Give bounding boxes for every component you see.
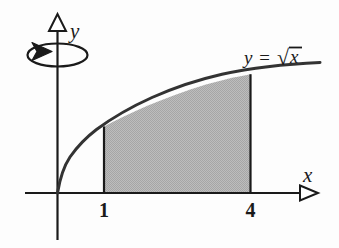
- figure-container: y x 1 4 y = √ x: [0, 0, 339, 248]
- sqrt-function-figure: y x 1 4 y = √ x: [0, 0, 339, 248]
- y-axis-label: y: [68, 19, 80, 43]
- x-tick-label-4: 4: [246, 199, 256, 221]
- x-axis-label: x: [302, 163, 313, 187]
- x-tick-label-1: 1: [99, 199, 109, 221]
- equation-radicand: x: [289, 46, 299, 67]
- equation-equals: =: [258, 47, 271, 68]
- equation-radical-icon: √: [277, 45, 290, 70]
- equation-lhs: y: [242, 47, 253, 68]
